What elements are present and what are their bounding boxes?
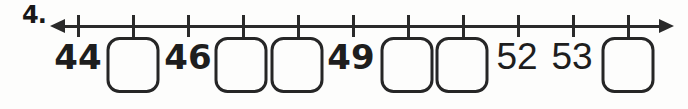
tick-mark [407,15,410,37]
number-label-52: 52 [496,41,537,73]
tick-mark [462,15,465,37]
answer-box[interactable] [436,37,489,93]
problem-number: 4. [22,1,46,29]
number-label-53: 53 [551,41,592,73]
number-line [54,25,662,28]
answer-box[interactable] [107,37,160,93]
number-label-46: 46 [164,41,211,73]
tick-mark [242,15,245,37]
tick-mark [627,15,630,37]
answer-box[interactable] [271,37,324,93]
right-arrow-icon [659,19,674,33]
number-label-44: 44 [54,41,101,73]
answer-box[interactable] [381,37,434,93]
tick-mark [297,15,300,37]
tick-mark [132,15,135,37]
tick-mark [572,15,575,37]
tick-mark [352,15,355,37]
number-label-49: 49 [327,41,374,73]
worksheet-number-line-problem: 4. 44 46 49 52 53 [0,0,688,109]
tick-mark [187,15,190,37]
answer-box[interactable] [602,37,655,93]
answer-box[interactable] [215,37,268,93]
tick-mark [517,15,520,37]
tick-mark [77,15,80,37]
left-arrow-icon [50,19,65,33]
